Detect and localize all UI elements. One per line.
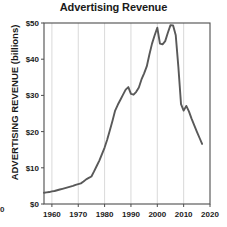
chart-figure: Advertising Revenue ADVERTISING REVENUE … [0,0,227,227]
y-tick-label: $10 [26,164,40,173]
plot-area: $0$10$20$30$40$50 1960197019801990200020… [0,0,227,227]
x-tick-label: 1980 [96,210,114,219]
x-tick-labels-group: 1960197019801990200020102020 [43,210,219,219]
x-tick-label: 1990 [122,210,140,219]
y-tick-labels-group: $0$10$20$30$40$50 [26,19,40,209]
y-tick-label: $50 [26,19,40,28]
data-line-group [44,25,202,193]
gridlines-group [52,23,184,204]
x-tick-label: 2000 [148,210,166,219]
y-tick-label: $20 [26,128,40,137]
plot-frame [44,23,210,204]
tick-marks-group [41,23,210,207]
y-tick-label: $0 [30,200,39,209]
x-tick-label: 1960 [43,210,61,219]
x-tick-label: 2020 [201,210,219,219]
y-tick-label: $30 [26,91,40,100]
plot-border [44,23,210,204]
y-tick-label: $40 [26,55,40,64]
data-line-advertising-revenue [44,25,202,193]
x-tick-label: 2010 [175,210,193,219]
x-tick-label: 1970 [69,210,87,219]
